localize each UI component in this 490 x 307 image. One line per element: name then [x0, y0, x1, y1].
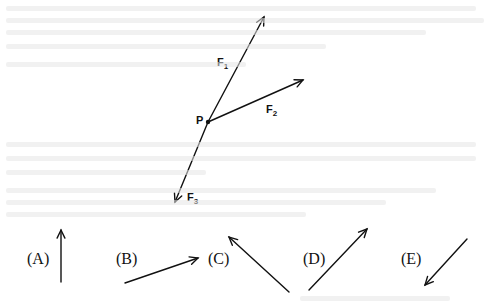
answer-choices: (A)(B)(C)(D)(E): [27, 229, 467, 292]
choice-arrow-a: [57, 230, 65, 282]
bleed-through-line: [6, 142, 476, 147]
bleed-through-line: [6, 170, 206, 175]
choice-arrow-c: [229, 237, 289, 292]
bleed-through-line: [6, 156, 476, 161]
bleed-through-line: [6, 212, 306, 217]
vector-diagram-page: F1F2F3 P (A)(B)(C)(D)(E): [0, 0, 490, 307]
choice-arrow-e: [425, 239, 467, 285]
force-label-f2: F2: [266, 103, 278, 118]
bleed-through-line: [6, 44, 326, 49]
choice-label-a: (A): [27, 250, 49, 268]
arrow-shaft: [425, 239, 467, 285]
choice-label-b: (B): [116, 250, 137, 268]
choice-label-e: (E): [401, 250, 421, 268]
choice-label-d: (D): [303, 250, 325, 268]
bleed-through-line: [6, 62, 246, 67]
bleed-through-line: [6, 6, 476, 11]
bleed-through-line: [6, 30, 426, 35]
force-arrow-f2: [208, 80, 303, 122]
bleed-through-line: [6, 200, 386, 205]
point-p-label: P: [196, 114, 203, 126]
bleed-through-line: [6, 188, 436, 193]
bleed-through-line: [300, 296, 450, 301]
arrow-shaft: [229, 237, 289, 292]
point-p-dot: [206, 120, 210, 124]
choice-label-c: (C): [208, 250, 229, 268]
bleed-through-line: [6, 18, 484, 23]
arrow-shaft: [208, 80, 303, 122]
